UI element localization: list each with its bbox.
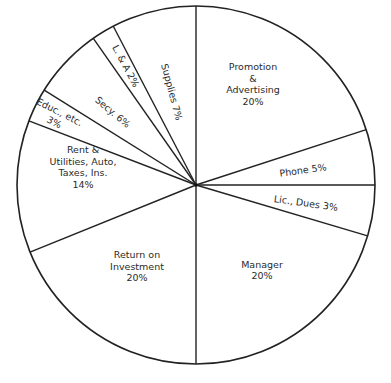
pie-center-dot	[194, 183, 198, 187]
pie-chart: Promotion&Advertising20%Phone 5%Lic., Du…	[0, 0, 391, 383]
chart-caption-cutoff: ​	[0, 374, 391, 383]
